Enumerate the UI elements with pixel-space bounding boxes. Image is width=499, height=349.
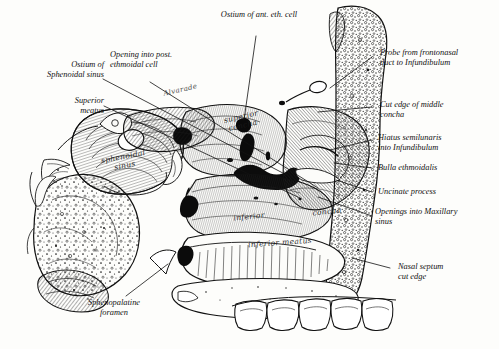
- probe-frontonasal-duct: [279, 80, 327, 105]
- anatomical-figure: Ostium of ant. eth. cell Probe from fron…: [0, 0, 499, 349]
- label-ostium-ant-eth-cell: Ostium of ant. eth. cell: [199, 10, 319, 20]
- label-cut-edge-middle-concha: Cut edge of middle concha: [380, 100, 492, 120]
- label-openings-maxillary-sinus: Openings into Maxillary sinus: [375, 207, 499, 227]
- label-superior-meatus: Superior meatus: [28, 96, 104, 116]
- label-nasal-septum-cut-edge: Nasal septum cut edge: [398, 262, 496, 282]
- label-bulla-ethmoidalis: Bulla ethmoidalis: [378, 163, 494, 173]
- label-sphenopalatine-foramen: Sphenopalatine foramen: [62, 298, 166, 318]
- leader-sphenopalatine: [126, 264, 168, 296]
- hard-palate-and-teeth: [172, 279, 396, 331]
- sphenopalatine-foramen: [150, 250, 176, 274]
- label-opening-post-ethmoidal-cell: Opening into post. ethmoidal cell: [110, 50, 220, 70]
- label-ostium-sphenoidal-sinus: Ostium of Sphenoidal sinus: [10, 60, 104, 80]
- label-uncinate-process: Uncinate process: [378, 187, 494, 197]
- label-hiatus-semilunaris: Hiatus semilunaris into Infundibulum: [378, 133, 498, 153]
- label-probe-frontonasal: Probe from frontonasal duct to Infundibu…: [380, 48, 498, 68]
